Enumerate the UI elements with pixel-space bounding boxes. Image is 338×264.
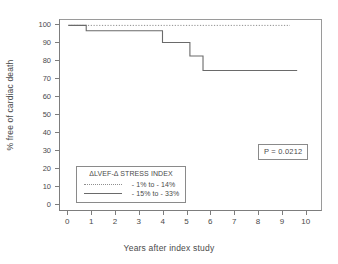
y-tick-label: 0 — [29, 200, 51, 209]
y-tick-label: 50 — [29, 110, 51, 119]
y-tick-label: 80 — [29, 56, 51, 65]
x-tick-label: 3 — [137, 217, 141, 226]
y-tick-label: 40 — [29, 128, 51, 137]
y-tick-label: 100 — [29, 20, 51, 29]
y-tick-mark — [55, 204, 59, 205]
x-tick-label: 1 — [89, 217, 93, 226]
y-tick-label: 10 — [29, 182, 51, 191]
y-tick-mark — [55, 114, 59, 115]
x-tick-label: 6 — [208, 217, 212, 226]
x-tick-mark — [210, 210, 211, 215]
y-tick-mark — [55, 42, 59, 43]
x-tick-mark — [115, 210, 116, 215]
y-tick-mark — [55, 168, 59, 169]
x-tick-mark — [306, 210, 307, 215]
legend-label-dotted: - 1% to - 14% — [123, 181, 176, 188]
legend-label-solid: - 15% to - 33% — [123, 190, 180, 197]
x-tick-mark — [139, 210, 140, 215]
x-tick-label: 9 — [280, 217, 284, 226]
p-value-annotation: P = 0.0212 — [258, 144, 308, 160]
x-tick-mark — [163, 210, 164, 215]
y-tick-mark — [55, 78, 59, 79]
x-tick-mark — [234, 210, 235, 215]
y-tick-mark — [55, 132, 59, 133]
x-tick-label: 5 — [184, 217, 188, 226]
y-tick-mark — [55, 60, 59, 61]
x-tick-label: 10 — [301, 217, 310, 226]
y-tick-label: 70 — [29, 74, 51, 83]
x-axis-title: Years after index study — [0, 243, 338, 253]
y-tick-label: 20 — [29, 164, 51, 173]
figure: % free of cardiac death Years after inde… — [0, 0, 338, 264]
y-tick-mark — [55, 96, 59, 97]
legend-title: ΔLVEF-Δ STRESS INDEX — [83, 170, 180, 177]
x-tick-mark — [187, 210, 188, 215]
y-tick-mark — [55, 24, 59, 25]
legend-key-solid-line — [83, 189, 123, 197]
legend-key-dotted-line — [83, 180, 123, 188]
legend-item-dotted: - 1% to - 14% — [83, 180, 180, 189]
y-tick-label: 60 — [29, 92, 51, 101]
y-axis-title: % free of cardiac death — [2, 0, 18, 210]
y-tick-label: 30 — [29, 146, 51, 155]
x-tick-label: 7 — [232, 217, 236, 226]
x-tick-label: 8 — [256, 217, 260, 226]
legend-item-solid: - 15% to - 33% — [83, 189, 180, 198]
y-tick-label: 90 — [29, 38, 51, 47]
x-tick-mark — [258, 210, 259, 215]
x-tick-mark — [67, 210, 68, 215]
y-tick-mark — [55, 186, 59, 187]
x-tick-mark — [282, 210, 283, 215]
y-tick-mark — [55, 150, 59, 151]
x-tick-label: 0 — [65, 217, 69, 226]
x-tick-label: 2 — [113, 217, 117, 226]
x-tick-label: 4 — [160, 217, 164, 226]
x-tick-mark — [91, 210, 92, 215]
series-line-2 — [68, 25, 297, 70]
legend: ΔLVEF-Δ STRESS INDEX - 1% to - 14% - 15%… — [76, 166, 187, 203]
